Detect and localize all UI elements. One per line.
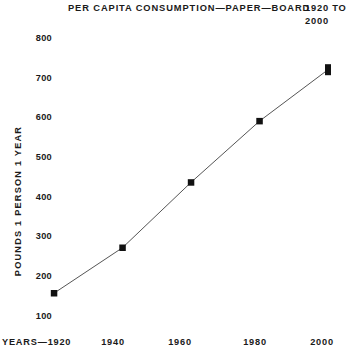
x-tick-label-1980: 1980 xyxy=(231,337,279,347)
y-tick-label-700: 700 xyxy=(0,73,52,83)
data-point-1980 xyxy=(256,118,263,125)
x-axis-first-label: YEARS—1920 xyxy=(2,337,71,347)
chart-title-range-line1: 1920 TO xyxy=(305,2,347,15)
x-tick-label-1960: 1960 xyxy=(156,337,204,347)
y-tick-label-600: 600 xyxy=(0,112,52,122)
data-point-1960 xyxy=(188,179,195,186)
data-markers-series-1 xyxy=(51,64,331,296)
plot-area xyxy=(0,0,353,358)
y-tick-label-500: 500 xyxy=(0,152,52,162)
y-tick-label-800: 800 xyxy=(0,33,52,43)
x-tick-label-1940: 1940 xyxy=(89,337,137,347)
chart-title-range: 1920 TO 2000 xyxy=(305,2,347,27)
data-point-1940 xyxy=(119,245,126,252)
y-tick-label-100: 100 xyxy=(0,311,52,321)
chart-figure: PER CAPITA CONSUMPTION—PAPER—BOARD 1920 … xyxy=(0,0,353,358)
data-point-1920 xyxy=(51,290,58,297)
x-tick-label-2000: 2000 xyxy=(298,337,346,347)
y-tick-label-200: 200 xyxy=(0,271,52,281)
y-tick-label-400: 400 xyxy=(0,192,52,202)
y-tick-label-300: 300 xyxy=(0,231,52,241)
chart-title-range-line2: 2000 xyxy=(305,15,347,28)
chart-title: PER CAPITA CONSUMPTION—PAPER—BOARD xyxy=(68,3,310,13)
data-point-2000 xyxy=(325,64,331,75)
data-line-series-1 xyxy=(54,70,328,294)
